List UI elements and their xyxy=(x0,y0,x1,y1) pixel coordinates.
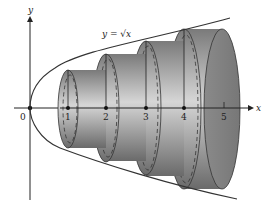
y-axis-arrow-icon xyxy=(27,16,33,22)
y-axis-label: y xyxy=(27,5,34,15)
tick-label-3: 3 xyxy=(143,112,149,122)
origin-label: 0 xyxy=(20,112,26,122)
x-axis-arrow-icon xyxy=(248,105,254,111)
x-axis-label: x xyxy=(256,103,261,113)
tick-label-1: 1 xyxy=(65,112,71,122)
tick-label-4: 4 xyxy=(181,112,187,122)
equation-label: y = √x xyxy=(101,29,131,39)
cylinder-1 xyxy=(58,70,106,148)
riemann-cylinders-diagram: y x 0 1 2 3 4 5 y = √x xyxy=(0,0,275,211)
tick-label-5: 5 xyxy=(221,112,227,122)
tick-label-2: 2 xyxy=(103,112,109,122)
